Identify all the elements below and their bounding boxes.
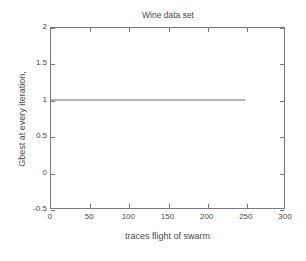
y-tick-mark-right bbox=[280, 64, 284, 65]
x-tick-label: 200 bbox=[187, 212, 227, 221]
x-tick-label: 50 bbox=[69, 212, 109, 221]
y-tick-mark bbox=[51, 210, 55, 211]
x-tick-label: 100 bbox=[108, 212, 148, 221]
y-tick-mark-right bbox=[280, 174, 284, 175]
x-tick-mark-top bbox=[129, 28, 130, 32]
y-tick-mark bbox=[51, 174, 55, 175]
y-tick-mark bbox=[51, 137, 55, 138]
x-tick-label: 0 bbox=[30, 212, 70, 221]
x-axis-label: traces flight of swarm bbox=[50, 231, 285, 242]
y-tick-label: 0.5 bbox=[17, 132, 47, 140]
y-tick-mark bbox=[51, 28, 55, 29]
x-tick-label: 300 bbox=[265, 212, 305, 221]
chart-figure: Wine data set traces flight of swarm Gbe… bbox=[0, 0, 306, 261]
x-tick-label: 150 bbox=[148, 212, 188, 221]
x-tick-mark-top bbox=[208, 28, 209, 32]
y-axis-label: Gbest at every iteration, bbox=[15, 28, 29, 210]
x-tick-mark-top bbox=[90, 28, 91, 32]
y-tick-label: 1 bbox=[17, 96, 47, 104]
y-tick-mark-right bbox=[280, 210, 284, 211]
y-tick-mark bbox=[51, 101, 55, 102]
y-tick-mark bbox=[51, 64, 55, 65]
x-tick-label: 250 bbox=[226, 212, 266, 221]
x-tick-mark-top bbox=[169, 28, 170, 32]
y-tick-mark-right bbox=[280, 101, 284, 102]
y-tick-label: 0 bbox=[17, 169, 47, 177]
x-tick-mark bbox=[129, 204, 130, 208]
chart-title: Wine data set bbox=[50, 10, 286, 21]
x-tick-mark-top bbox=[247, 28, 248, 32]
x-tick-mark bbox=[208, 204, 209, 208]
plot-inner bbox=[51, 28, 284, 208]
plot-area bbox=[50, 27, 285, 209]
x-tick-mark bbox=[169, 204, 170, 208]
data-series-line bbox=[51, 28, 284, 208]
x-tick-mark bbox=[247, 204, 248, 208]
y-tick-mark-right bbox=[280, 28, 284, 29]
x-tick-mark bbox=[90, 204, 91, 208]
y-tick-label: 1.5 bbox=[17, 59, 47, 67]
y-tick-label: 2 bbox=[17, 23, 47, 31]
y-tick-mark-right bbox=[280, 137, 284, 138]
